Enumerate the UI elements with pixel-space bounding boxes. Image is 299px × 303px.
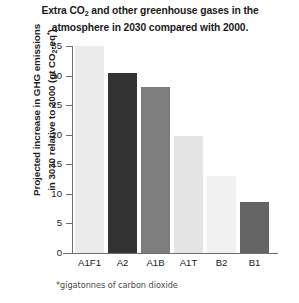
x-axis-line: [63, 253, 278, 254]
y-axis-tick: [66, 135, 72, 136]
bar: [174, 136, 203, 253]
y-axis-tick: [66, 223, 72, 224]
x-axis-tick-label: B2: [205, 256, 238, 272]
y-axis-tick: [66, 105, 72, 106]
y-axis-tick-label: 20: [28, 130, 62, 140]
bar: [240, 202, 269, 253]
bar-slot: [238, 46, 271, 253]
x-axis-tick-label: A1T: [172, 256, 205, 272]
chart-title-line1: Extra CO2 and other greenhouse gases in …: [41, 5, 258, 16]
x-axis-tick-label: A1F1: [73, 256, 106, 272]
y-axis-tick-label: 30: [28, 71, 62, 81]
y-axis-tick-labels: 35302520151050: [28, 0, 62, 303]
chart-title-line2: atmosphere in 2030 compared with 2000.: [52, 22, 249, 33]
x-axis-tick-label: A1B: [139, 256, 172, 272]
y-axis-tick: [66, 76, 72, 77]
y-axis-tick: [66, 194, 72, 195]
chart-title-line1-post: and other greenhouse gases in the: [89, 5, 259, 16]
y-axis-tick-label: 15: [28, 159, 62, 169]
bar-slot: [139, 46, 172, 253]
bar-slot: [106, 46, 139, 253]
chart-title: Extra CO2 and other greenhouse gases in …: [30, 4, 270, 34]
y-axis-tick-label: 10: [28, 189, 62, 199]
y-axis-tick: [66, 253, 72, 254]
bar-slot: [172, 46, 205, 253]
bar: [108, 73, 137, 253]
x-axis-tick-label: B1: [238, 256, 271, 272]
bar-chart-figure: Extra CO2 and other greenhouse gases in …: [0, 0, 299, 303]
bar-slot: [73, 46, 106, 253]
bar-series: [73, 46, 271, 253]
bar: [141, 87, 170, 253]
x-axis-tick-label: A2: [106, 256, 139, 272]
plot-area: [73, 46, 271, 253]
chart-footnote: *gigatonnes of carbon dioxide: [56, 280, 178, 290]
y-axis-tick-label: 25: [28, 100, 62, 110]
y-axis-tick-label: 35: [28, 41, 62, 51]
x-axis-tick-labels: A1F1A2A1BA1TB2B1: [73, 256, 271, 272]
y-axis-tick-label: 5: [28, 218, 62, 228]
bar: [75, 46, 104, 253]
y-axis-tick-label: 0: [28, 248, 62, 258]
y-axis-tick: [66, 164, 72, 165]
bar-slot: [205, 46, 238, 253]
bar: [207, 176, 236, 253]
y-axis-tick: [66, 46, 72, 47]
